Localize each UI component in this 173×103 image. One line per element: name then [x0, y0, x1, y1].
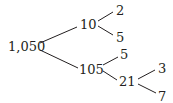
- node-3: 3: [158, 62, 166, 75]
- node-7: 7: [158, 90, 166, 103]
- edge-n105-n21: [103, 71, 117, 80]
- node-105: 105: [79, 63, 104, 76]
- edge-n105-n5b: [103, 57, 118, 65]
- node-5-from-10: 5: [116, 31, 124, 44]
- node-2: 2: [116, 4, 124, 17]
- edge-n21-n7: [138, 84, 156, 93]
- node-21: 21: [119, 75, 136, 88]
- node-1050: 1,050: [8, 40, 45, 53]
- edge-n1050-n105: [40, 50, 78, 68]
- edge-n21-n3: [138, 70, 155, 79]
- node-5-from-105: 5: [120, 48, 128, 61]
- factor-tree: 1,050 10 2 5 105 5 21 3 7: [0, 0, 173, 103]
- edge-n10-n5a: [98, 26, 113, 35]
- edge-n10-n2: [98, 12, 113, 21]
- edge-n1050-n10: [40, 27, 77, 43]
- node-10: 10: [80, 18, 97, 31]
